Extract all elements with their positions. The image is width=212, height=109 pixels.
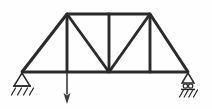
pin-support-hatch	[12, 88, 16, 95]
roller-wheel	[183, 84, 187, 88]
roller-support	[180, 73, 198, 97]
joint-a	[21, 71, 24, 74]
point-load-arrow	[64, 72, 71, 104]
pin-support-hatch	[30, 88, 34, 95]
roller-support-hatch	[180, 90, 184, 97]
roller-support-hatch	[189, 90, 193, 97]
right-end-diagonal	[150, 14, 188, 72]
pin-support	[12, 73, 34, 95]
joint-e	[187, 71, 190, 74]
pin-support-hatch	[18, 88, 22, 95]
roller-support-triangle	[182, 73, 194, 83]
joint-b	[66, 71, 69, 74]
pin-support-hatch	[24, 88, 28, 95]
left-inner-diagonal	[67, 14, 109, 72]
joint-f	[66, 13, 69, 16]
truss-figure	[0, 0, 212, 109]
roller-support-hatch	[184, 90, 188, 97]
truss-diagram-canvas	[0, 0, 212, 109]
joint-g	[108, 13, 111, 16]
roller-support-hatch	[194, 90, 198, 97]
right-inner-diagonal	[109, 14, 150, 72]
left-end-diagonal	[22, 14, 67, 72]
joint-h	[149, 13, 152, 16]
pin-support-triangle	[14, 73, 30, 86]
joint-c	[108, 71, 111, 74]
truss-members-group	[22, 14, 188, 72]
joint-d	[149, 71, 152, 74]
load-arrow-head	[64, 93, 71, 104]
roller-wheel	[188, 84, 192, 88]
